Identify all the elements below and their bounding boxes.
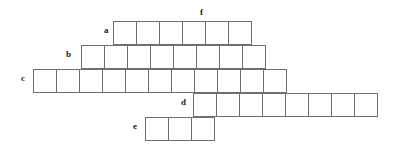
grid-cell-b-8[interactable] [242,45,266,69]
grid-cell-d-3[interactable] [239,93,263,117]
grid-cell-b-4[interactable] [150,45,174,69]
grid-cell-d-1[interactable] [193,93,217,117]
row-label-a: a [104,26,109,35]
grid-cell-c-10[interactable] [240,69,264,93]
grid-row-b [81,45,273,69]
grid-row-c [33,69,297,93]
grid-cell-b-3[interactable] [127,45,151,69]
grid-cell-c-1[interactable] [33,69,57,93]
grid-cell-b-5[interactable] [173,45,197,69]
grid-cell-c-8[interactable] [194,69,218,93]
grid-cell-e-1[interactable] [145,117,169,141]
row-label-c: c [21,74,25,83]
row-label-e: e [133,122,137,131]
grid-cell-d-7[interactable] [331,93,355,117]
grid-row-e [145,117,217,141]
grid-cell-d-2[interactable] [216,93,240,117]
grid-cell-d-8[interactable] [354,93,378,117]
grid-cell-c-9[interactable] [217,69,241,93]
grid-cell-c-5[interactable] [125,69,149,93]
grid-cell-d-4[interactable] [262,93,286,117]
grid-cell-a-2[interactable] [136,21,160,45]
grid-cell-b-2[interactable] [104,45,128,69]
grid-cell-a-3[interactable] [159,21,183,45]
grid-cell-d-6[interactable] [308,93,332,117]
grid-cell-c-11[interactable] [263,69,287,93]
row-label-d: d [181,98,186,107]
grid-row-a [113,21,257,45]
column-label-f: f [200,8,203,17]
grid-cell-b-6[interactable] [196,45,220,69]
grid-cell-c-3[interactable] [79,69,103,93]
grid-cell-b-1[interactable] [81,45,105,69]
grid-cell-e-2[interactable] [168,117,192,141]
grid-cell-e-3[interactable] [191,117,215,141]
crossword-grid-figure: f a b c d e [0,0,393,149]
grid-cell-a-5[interactable] [205,21,229,45]
row-label-b: b [66,50,71,59]
grid-cell-a-1[interactable] [113,21,137,45]
grid-cell-c-6[interactable] [148,69,172,93]
grid-cell-c-2[interactable] [56,69,80,93]
grid-cell-c-4[interactable] [102,69,126,93]
grid-cell-d-5[interactable] [285,93,309,117]
grid-cell-c-7[interactable] [171,69,195,93]
grid-cell-b-7[interactable] [219,45,243,69]
grid-row-d [193,93,385,117]
grid-cell-a-4[interactable] [182,21,206,45]
grid-cell-a-6[interactable] [228,21,252,45]
